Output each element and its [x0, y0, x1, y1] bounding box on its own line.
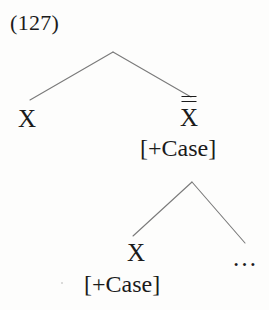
- tree-node-complement-ellipsis: …: [232, 245, 258, 270]
- tree-node-head-label: X: [127, 240, 145, 265]
- tree-node-maximal-projection-feature: [+Case]: [140, 136, 216, 160]
- tree-node-maximal-projection-label: X: [180, 105, 198, 130]
- figure-canvas: (127) X X [+Case] X [+Case] …: [0, 0, 269, 310]
- overbar-lower-icon: [182, 101, 197, 102]
- branch-root-to-maximal-projection: [113, 52, 191, 97]
- example-number-label: (127): [10, 12, 59, 34]
- tree-node-head-feature: [+Case]: [84, 272, 160, 296]
- tree-node-maximal-projection: X: [180, 96, 198, 130]
- branch-root-to-specifier: [30, 52, 113, 100]
- double-overbar-group: X: [180, 96, 198, 130]
- branch-maximal-projection-to-complement: [192, 182, 245, 243]
- scan-artifact-speck: [61, 282, 63, 284]
- overbar-upper-icon: [182, 96, 197, 97]
- tree-node-specifier-label: X: [18, 106, 36, 131]
- branch-maximal-projection-to-head: [133, 182, 192, 236]
